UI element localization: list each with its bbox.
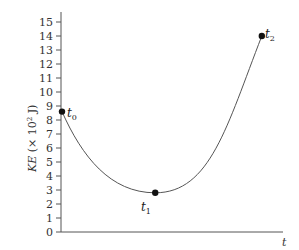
y-tick-label: 5 — [46, 156, 53, 169]
y-tick-label: 8 — [46, 114, 53, 127]
label-t1: t1 — [141, 200, 151, 216]
y-axis-ticks: 0123456789101112131415 — [39, 16, 61, 239]
y-tick-label: 9 — [46, 100, 53, 113]
y-axis-label: KE (× 102 J) — [26, 105, 39, 173]
y-tick-label: 13 — [39, 44, 53, 57]
x-axis-label: t — [282, 236, 287, 249]
label-t0: t0 — [67, 106, 77, 122]
y-tick-label: 3 — [46, 184, 53, 197]
ke-chart: 0123456789101112131415 t0 t1 t2 t KE (× … — [0, 0, 299, 250]
y-tick-label: 2 — [46, 198, 53, 211]
y-tick-label: 12 — [39, 58, 53, 71]
y-tick-label: 1 — [46, 212, 53, 225]
y-tick-label: 15 — [39, 16, 53, 29]
y-tick-label: 7 — [46, 128, 53, 141]
point-t1 — [152, 190, 158, 196]
y-tick-label: 0 — [46, 226, 53, 239]
ke-curve — [62, 36, 262, 193]
y-tick-label: 6 — [46, 142, 53, 155]
y-tick-label: 14 — [39, 30, 53, 43]
y-tick-label: 4 — [46, 170, 53, 183]
label-t2: t2 — [265, 27, 275, 43]
y-tick-label: 10 — [39, 86, 53, 99]
y-tick-label: 11 — [39, 72, 53, 85]
point-t0 — [59, 108, 65, 114]
